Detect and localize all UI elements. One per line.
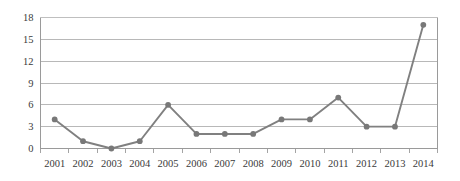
x-axis-tick-label: 2007 <box>214 158 235 169</box>
data-point-marker <box>194 131 200 137</box>
gridlines-group <box>41 18 438 127</box>
y-axis-tick-label: 0 <box>28 143 33 154</box>
data-point-marker <box>222 131 228 137</box>
x-axis-tick-label: 2005 <box>158 158 179 169</box>
data-point-marker <box>137 138 143 144</box>
data-point-marker <box>80 138 86 144</box>
data-point-marker <box>165 102 171 108</box>
y-axis-tick-label: 12 <box>23 56 34 67</box>
series-markers-group <box>52 22 426 152</box>
y-axis-tick-label: 9 <box>28 78 33 89</box>
x-tick-marks <box>41 149 438 153</box>
y-axis-tick-label: 15 <box>23 34 34 45</box>
data-point-marker <box>250 131 256 137</box>
data-point-marker <box>335 95 341 101</box>
data-point-marker <box>52 116 58 122</box>
y-axis-tick-label: 6 <box>28 99 33 110</box>
x-axis-tick-label: 2008 <box>243 158 264 169</box>
x-axis-tick-label: 2003 <box>101 158 122 169</box>
y-axis-tick-label: 18 <box>23 12 34 23</box>
data-point-marker <box>420 22 426 28</box>
x-axis-tick-label: 2009 <box>271 158 292 169</box>
x-axis-tick-label: 2010 <box>299 158 320 169</box>
chart-canvas: 0369121518 20012002200320042005200620072… <box>0 0 460 181</box>
data-point-marker <box>279 116 285 122</box>
data-point-marker <box>364 124 370 130</box>
y-axis-tick-label: 3 <box>28 121 33 132</box>
x-axis-tick-label: 2004 <box>129 158 151 169</box>
x-axis-tick-label: 2012 <box>356 158 377 169</box>
line-chart: 0369121518 20012002200320042005200620072… <box>0 0 460 181</box>
x-axis-tick-label: 2002 <box>73 158 94 169</box>
x-axis-tick-label: 2013 <box>384 158 405 169</box>
x-axis-tick-label: 2001 <box>44 158 65 169</box>
data-point-marker <box>392 124 398 130</box>
x-axis-tick-label: 2006 <box>186 158 207 169</box>
data-point-marker <box>108 146 114 152</box>
x-axis-tick-label: 2014 <box>413 158 435 169</box>
series-line <box>55 25 424 149</box>
y-axis-labels: 0369121518 <box>23 12 34 154</box>
x-axis-tick-label: 2011 <box>328 158 349 169</box>
x-axis-labels: 2001200220032004200520062007200820092010… <box>44 158 434 169</box>
data-point-marker <box>307 116 313 122</box>
series-line-group <box>55 25 424 149</box>
